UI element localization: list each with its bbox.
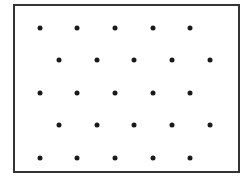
lattice-dot <box>38 156 43 161</box>
lattice-dot <box>113 91 118 96</box>
lattice-dot <box>208 123 213 128</box>
lattice-dot <box>75 156 80 161</box>
lattice-dot <box>75 26 80 31</box>
lattice-dot <box>57 123 62 128</box>
lattice-dot <box>188 156 193 161</box>
lattice-dot <box>170 58 175 63</box>
lattice-dot <box>38 26 43 31</box>
lattice-dot <box>38 91 43 96</box>
lattice-dot <box>208 58 213 63</box>
lattice-dot <box>95 123 100 128</box>
lattice-dot <box>113 156 118 161</box>
lattice-dot <box>57 58 62 63</box>
dot-lattice-figure <box>0 0 250 180</box>
lattice-dot <box>151 26 156 31</box>
lattice-dot <box>132 123 137 128</box>
lattice-dot <box>188 91 193 96</box>
bounding-frame <box>13 4 240 173</box>
lattice-dot <box>151 156 156 161</box>
lattice-dot <box>113 26 118 31</box>
lattice-dot <box>170 123 175 128</box>
lattice-dot <box>188 26 193 31</box>
lattice-dot <box>95 58 100 63</box>
lattice-dot <box>75 91 80 96</box>
lattice-dot <box>132 58 137 63</box>
lattice-dot <box>151 91 156 96</box>
